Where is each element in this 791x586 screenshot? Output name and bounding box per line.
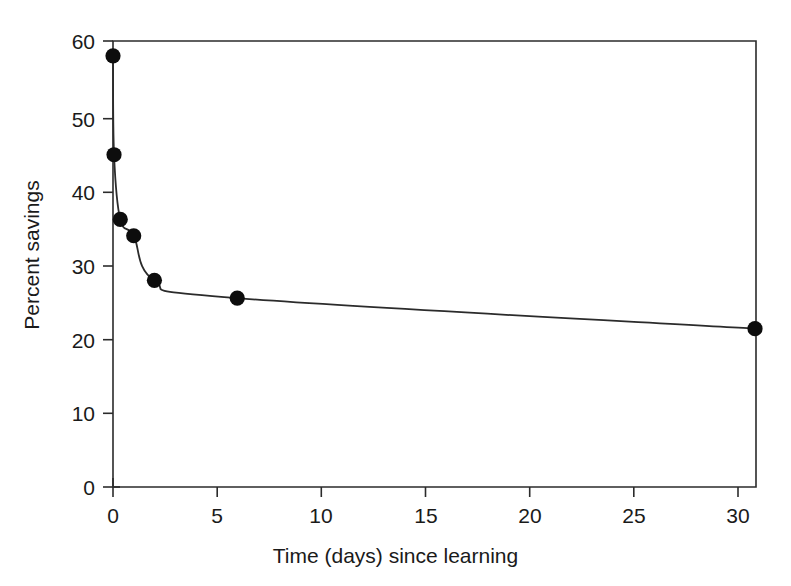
data-point bbox=[126, 228, 141, 243]
x-tick-label-0: 0 bbox=[107, 505, 119, 526]
x-axis-title: Time (days) since learning bbox=[0, 544, 791, 568]
plot-frame bbox=[113, 41, 756, 487]
x-tick-label-20: 20 bbox=[518, 505, 541, 526]
data-point bbox=[105, 48, 120, 63]
x-tick-label-10: 10 bbox=[309, 505, 332, 526]
data-point bbox=[147, 273, 162, 288]
forgetting-curve-chart: 0 10 20 30 40 50 60 0 5 10 15 20 25 30 T… bbox=[0, 0, 791, 586]
y-tick-label-20: 20 bbox=[45, 330, 95, 351]
data-point bbox=[747, 321, 762, 336]
y-tick-label-60: 60 bbox=[45, 31, 95, 52]
curve-line bbox=[113, 56, 755, 329]
x-tick-label-25: 25 bbox=[622, 505, 645, 526]
y-tick-label-0: 0 bbox=[45, 477, 95, 498]
y-tick-label-40: 40 bbox=[45, 182, 95, 203]
y-tick-label-30: 30 bbox=[45, 256, 95, 277]
plot-area bbox=[0, 0, 791, 586]
data-point bbox=[230, 291, 245, 306]
x-tick-label-15: 15 bbox=[414, 505, 437, 526]
x-tick-label-30: 30 bbox=[726, 505, 749, 526]
frame-border bbox=[113, 41, 756, 487]
y-tick-marks bbox=[103, 41, 120, 487]
x-tick-label-5: 5 bbox=[211, 505, 223, 526]
y-tick-label-50: 50 bbox=[45, 109, 95, 130]
data-point bbox=[106, 147, 121, 162]
y-tick-label-10: 10 bbox=[45, 403, 95, 424]
y-axis-title: Percent savings bbox=[20, 155, 44, 355]
data-series-percent-savings bbox=[105, 48, 762, 336]
data-point bbox=[113, 212, 128, 227]
